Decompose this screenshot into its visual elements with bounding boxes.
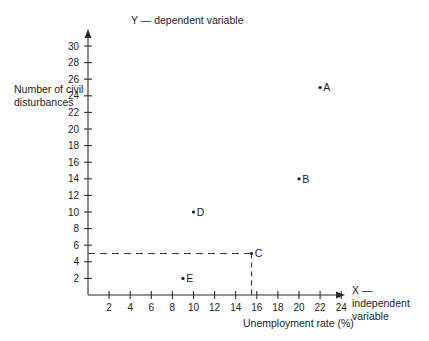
data-point-marker <box>250 252 253 255</box>
x-axis-caption: X — independent variable <box>352 284 429 323</box>
x-tick-label: 24 <box>336 302 348 313</box>
x-tick-label: 4 <box>127 302 133 313</box>
y-tick-label: 28 <box>68 57 80 68</box>
y-tick-label: 30 <box>68 41 80 52</box>
x-tick-label: 22 <box>315 302 327 313</box>
data-point-marker <box>181 277 184 280</box>
y-tick-label: 18 <box>68 140 80 151</box>
y-axis-caption: Y — dependent variable <box>131 14 243 27</box>
x-tick-label: 2 <box>106 302 112 313</box>
data-point-label: D <box>197 206 205 218</box>
y-tick-label: 4 <box>73 256 79 267</box>
data-point-marker <box>319 86 322 89</box>
x-tick-label: 12 <box>209 302 221 313</box>
y-tick-label: 16 <box>68 157 80 168</box>
y-tick-label: 20 <box>68 124 80 135</box>
data-point-label: A <box>323 81 330 93</box>
y-tick-label: 12 <box>68 190 80 201</box>
x-axis-arrow-icon <box>336 292 345 299</box>
x-tick-label: 18 <box>272 302 284 313</box>
y-tick-label: 10 <box>68 207 80 218</box>
x-axis-label: Unemployment rate (%) <box>243 317 354 330</box>
x-tick-label: 6 <box>149 302 155 313</box>
x-tick-label: 16 <box>251 302 263 313</box>
x-tick-group: 24681012141618202224 <box>106 291 347 313</box>
chart-figure: 24681012141618202224262830 2468101214161… <box>0 0 429 341</box>
data-point-marker <box>297 177 300 180</box>
y-axis-arrow-icon <box>85 29 92 38</box>
x-tick-label: 20 <box>293 302 305 313</box>
guide-lines-group <box>88 254 252 296</box>
y-tick-label: 8 <box>73 223 79 234</box>
data-point-marker <box>192 210 195 213</box>
x-tick-label: 10 <box>188 302 200 313</box>
y-tick-label: 2 <box>73 273 79 284</box>
y-tick-label: 6 <box>73 240 79 251</box>
x-axis-group <box>88 292 345 299</box>
y-axis-label: Number of civil disturbances <box>14 83 88 109</box>
data-points-group: ABCDE <box>181 81 330 284</box>
x-tick-label: 14 <box>230 302 242 313</box>
data-point-label: E <box>186 272 193 284</box>
data-point-label: C <box>255 247 263 259</box>
x-tick-label: 8 <box>170 302 176 313</box>
data-point-label: B <box>302 173 309 185</box>
y-tick-label: 14 <box>68 173 80 184</box>
